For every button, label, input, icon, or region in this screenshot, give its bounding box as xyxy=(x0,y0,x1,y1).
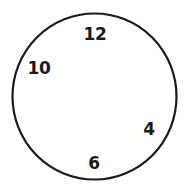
clock-face-diagram: 12 10 4 6 xyxy=(0,0,189,191)
hour-label-6: 6 xyxy=(88,155,100,172)
hour-label-12: 12 xyxy=(83,26,106,43)
hour-label-10: 10 xyxy=(27,60,50,77)
hour-label-4: 4 xyxy=(143,121,155,138)
